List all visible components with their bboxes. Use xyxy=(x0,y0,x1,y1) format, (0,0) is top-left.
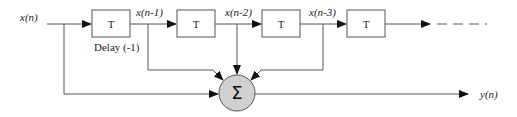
delay-block-2-label: T xyxy=(193,18,200,30)
tap-label-2: x(n-2) xyxy=(224,6,252,19)
sigma-icon: Σ xyxy=(231,82,242,103)
tap-label-3: x(n-3) xyxy=(308,6,336,19)
input-label: x(n) xyxy=(19,11,38,24)
diagram-canvas: T T T T Σ x(n) Delay (-1) x(n-1) x(n-2) … xyxy=(0,0,517,117)
delay-block-3-label: T xyxy=(278,18,285,30)
delay-caption: Delay (-1) xyxy=(94,41,140,54)
tap-label-1: x(n-1) xyxy=(135,6,163,19)
delay-block-4-label: T xyxy=(363,18,370,30)
output-label: y(n) xyxy=(479,88,498,101)
delay-block-1-label: T xyxy=(108,18,115,30)
